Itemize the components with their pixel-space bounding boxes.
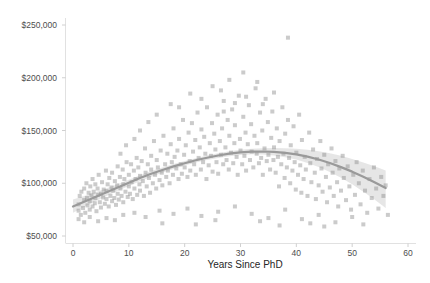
data-point — [155, 158, 159, 162]
data-point — [108, 194, 112, 198]
data-point — [149, 168, 153, 172]
data-point — [78, 194, 82, 198]
data-point — [280, 105, 284, 109]
data-point — [260, 129, 264, 133]
data-point — [172, 212, 176, 216]
data-point — [308, 221, 312, 225]
data-point — [332, 194, 336, 198]
data-point — [324, 175, 328, 179]
scatter-plot-figure: $50,000$100,000$150,000$200,000$250,000 … — [0, 0, 430, 283]
data-point — [99, 206, 103, 210]
data-point — [182, 153, 186, 157]
data-point — [156, 165, 160, 169]
data-point — [359, 202, 363, 206]
data-point — [269, 136, 273, 140]
data-point — [103, 202, 107, 206]
x-tick-label: 60 — [403, 248, 413, 258]
data-point — [190, 121, 194, 125]
data-point — [279, 162, 283, 166]
data-point — [347, 184, 351, 188]
data-point — [155, 113, 159, 117]
data-point — [227, 168, 231, 172]
data-point — [252, 134, 256, 138]
data-point — [142, 194, 146, 198]
data-point — [331, 171, 335, 175]
y-tick-label: $200,000 — [22, 73, 58, 83]
data-point — [140, 159, 144, 163]
data-point — [268, 168, 272, 172]
data-point — [216, 172, 220, 176]
data-point — [307, 131, 311, 135]
data-point — [136, 165, 140, 169]
data-point — [330, 146, 334, 150]
data-point — [149, 154, 153, 158]
data-point — [287, 156, 291, 160]
data-point — [154, 187, 158, 191]
data-point — [82, 187, 86, 191]
data-point — [127, 184, 131, 188]
data-point — [244, 131, 248, 135]
data-point — [181, 118, 185, 122]
data-point — [244, 169, 248, 173]
data-point — [300, 138, 304, 142]
data-point — [288, 181, 292, 185]
data-point — [191, 150, 195, 154]
data-point — [169, 102, 173, 106]
data-point — [129, 162, 133, 166]
data-point — [274, 171, 278, 175]
data-point — [148, 191, 152, 195]
data-point — [132, 211, 136, 215]
data-point — [183, 165, 187, 169]
data-point — [317, 183, 321, 187]
data-point — [339, 189, 343, 193]
data-point — [309, 180, 313, 184]
x-tick-group — [73, 244, 408, 248]
data-point — [258, 111, 262, 115]
data-point — [89, 193, 93, 197]
data-point — [266, 153, 270, 157]
data-point — [173, 155, 177, 159]
data-point — [235, 155, 239, 159]
data-point — [114, 203, 118, 207]
y-tick-label: $50,000 — [26, 231, 57, 241]
data-point — [132, 187, 136, 191]
data-point — [241, 115, 245, 119]
data-point — [170, 160, 174, 164]
data-point — [233, 101, 237, 105]
data-point — [233, 123, 237, 127]
data-point — [210, 121, 214, 125]
data-point — [151, 181, 155, 185]
data-point — [248, 158, 252, 162]
data-point — [261, 102, 265, 106]
data-point — [250, 212, 254, 216]
x-tick-label: 40 — [292, 248, 302, 258]
data-point — [158, 178, 162, 182]
data-point — [138, 189, 142, 193]
x-tick-label: 20 — [180, 248, 190, 258]
data-point — [194, 173, 198, 177]
data-point — [211, 170, 215, 174]
data-point — [168, 181, 172, 185]
data-point — [222, 110, 226, 114]
data-point — [226, 118, 230, 122]
data-point — [161, 134, 165, 138]
data-point — [265, 159, 269, 163]
x-tick-label: 10 — [124, 248, 134, 258]
data-point — [118, 152, 122, 156]
data-point — [77, 217, 81, 221]
data-point — [91, 177, 95, 181]
data-point — [113, 179, 117, 183]
data-point — [177, 137, 181, 141]
data-point — [198, 145, 202, 149]
data-point — [240, 162, 244, 166]
data-point — [92, 190, 96, 194]
data-point — [107, 204, 111, 208]
data-point — [227, 78, 231, 82]
data-point — [194, 222, 198, 226]
data-point — [82, 220, 86, 224]
data-point — [370, 196, 374, 200]
data-point — [203, 152, 207, 156]
data-point — [335, 180, 339, 184]
data-point — [275, 126, 279, 130]
data-point — [177, 105, 181, 109]
